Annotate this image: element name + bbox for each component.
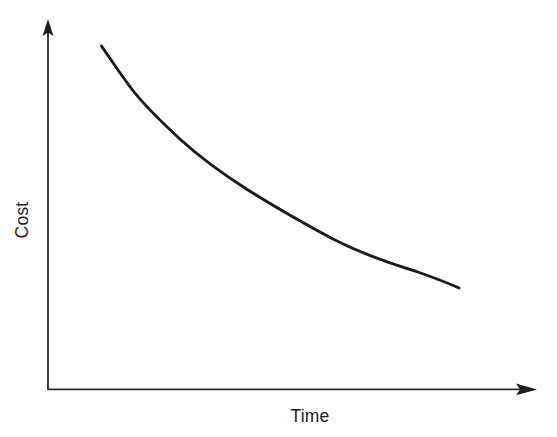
y-axis-label: Cost: [12, 202, 32, 239]
chart-canvas: Time Cost: [0, 0, 557, 437]
x-axis-label: Time: [290, 406, 329, 426]
cost-vs-time-chart: Time Cost: [0, 0, 557, 437]
chart-background: [0, 0, 557, 437]
